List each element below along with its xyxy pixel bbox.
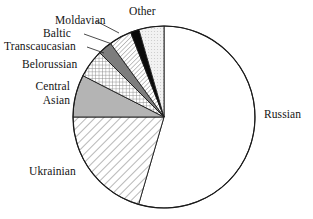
leader-line-baltic: [84, 34, 112, 44]
pie-chart-figure: Other Moldavian Baltic Transcaucasian Be…: [0, 0, 313, 219]
pie-slices-group: [73, 26, 255, 208]
slice-label-belorussian: Belorussian: [22, 58, 77, 70]
slice-label-central-asian-line2: Asian: [24, 94, 70, 106]
leader-line-transcaucasian: [87, 47, 104, 53]
slice-label-central-asian-line1: Central: [24, 80, 70, 92]
slice-label-transcaucasian: Transcaucasian: [4, 40, 76, 52]
slice-label-baltic: Baltic: [43, 27, 71, 39]
slice-label-russian: Russian: [264, 108, 301, 120]
slice-label-ukrainian: Ukrainian: [29, 165, 76, 177]
slice-label-other: Other: [129, 5, 156, 17]
slice-label-moldavian: Moldavian: [55, 14, 106, 26]
